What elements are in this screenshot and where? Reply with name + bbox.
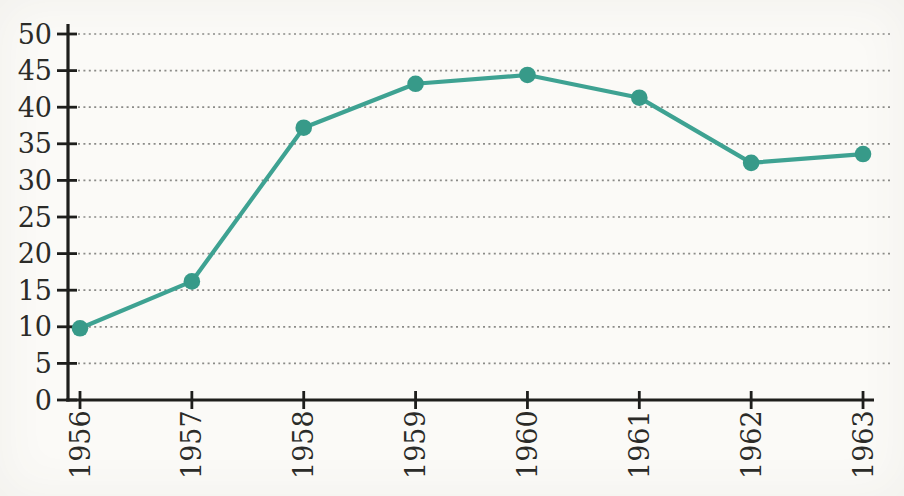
data-point-1960 [519, 67, 536, 84]
y-tick-label-5: 5 [35, 348, 52, 379]
x-tick-label-1962: 1962 [736, 410, 767, 479]
y-tick-label-10: 10 [18, 311, 52, 342]
data-point-1957 [184, 273, 201, 290]
y-tick-label-50: 50 [18, 19, 52, 50]
y-tick-label-35: 35 [18, 128, 52, 159]
x-tick-label-1963: 1963 [848, 410, 879, 479]
y-tick-label-20: 20 [18, 238, 52, 269]
data-point-1959 [407, 75, 424, 92]
x-tick-label-1960: 1960 [512, 410, 543, 479]
data-point-1961 [631, 89, 648, 106]
y-tick-label-45: 45 [18, 55, 52, 86]
line-chart-canvas: 0510152025303540455019561957195819591960… [0, 0, 904, 496]
y-tick-label-30: 30 [18, 165, 52, 196]
x-tick-label-1956: 1956 [65, 410, 96, 479]
y-tick-label-40: 40 [18, 92, 52, 123]
x-tick-label-1958: 1958 [288, 410, 319, 479]
chart-page: 0510152025303540455019561957195819591960… [0, 0, 904, 496]
data-point-1963 [855, 146, 872, 163]
y-tick-label-15: 15 [18, 275, 52, 306]
data-point-1962 [743, 155, 760, 172]
y-tick-label-25: 25 [18, 202, 52, 233]
x-tick-label-1961: 1961 [624, 410, 655, 479]
x-tick-label-1957: 1957 [176, 410, 207, 479]
x-tick-label-1959: 1959 [400, 410, 431, 479]
data-point-1956 [72, 320, 89, 337]
data-point-1958 [295, 119, 312, 136]
y-tick-label-0: 0 [35, 385, 52, 416]
